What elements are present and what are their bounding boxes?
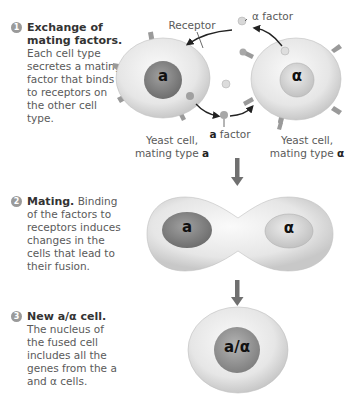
- down-arrow-1: [235, 158, 240, 178]
- fused-nucleus-alpha-label: α: [279, 222, 299, 235]
- down-arrow-2: [235, 280, 240, 298]
- cell-a-caption: Yeast cell, mating type a: [127, 134, 217, 160]
- mating-diagram: [0, 0, 352, 397]
- a-factor-molecule: [186, 92, 194, 100]
- nucleus-alpha-label: α: [287, 70, 307, 83]
- fused-nucleus-a-label: a: [177, 221, 197, 234]
- arrow-a-to-alpha: [230, 107, 252, 116]
- a-factor-molecule: [220, 111, 228, 119]
- nucleus-a-label: a: [153, 70, 173, 83]
- alpha-factor-molecule: [281, 47, 289, 55]
- diploid-nucleus-label: a/α: [217, 341, 257, 354]
- a-factor-molecule: [240, 49, 247, 56]
- alpha-factor-label: α factor: [252, 10, 312, 23]
- receptor-pointer: [197, 32, 203, 48]
- alpha-factor-molecule: [238, 17, 246, 25]
- arrow-a-out: [196, 104, 218, 116]
- alpha-factor-molecule: [222, 80, 230, 88]
- cell-alpha-caption: Yeast cell, mating type α: [262, 134, 352, 160]
- arrow-alpha-to-a: [188, 30, 232, 44]
- receptor-label: Receptor: [162, 19, 222, 32]
